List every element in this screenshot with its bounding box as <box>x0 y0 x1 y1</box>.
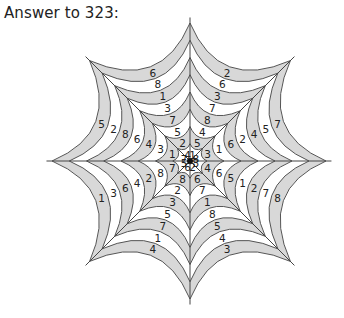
shaded-band <box>90 240 190 299</box>
web-cell-number: 5 <box>214 220 221 232</box>
web-cell-number: 7 <box>274 118 281 130</box>
web-cell-number: 8 <box>154 78 161 90</box>
web-cell-number: 3 <box>204 148 211 160</box>
web-cell-number: 1 <box>216 143 223 155</box>
web-cell-number: 1 <box>154 232 161 244</box>
web-cell-number: 5 <box>194 137 201 149</box>
web-cell-number: 3 <box>214 90 221 102</box>
shaded-band <box>190 240 290 299</box>
web-cell-number: 3 <box>169 196 176 208</box>
web-cell-number: 6 <box>219 78 226 90</box>
web-cell-number: 6 <box>122 182 129 194</box>
web-cell-number: 7 <box>159 220 166 232</box>
web-cell-number: 5 <box>174 126 181 138</box>
web-cell-number: 1 <box>98 192 105 204</box>
web-cell-number: 3 <box>157 143 164 155</box>
web-cell-number: 2 <box>251 182 258 194</box>
web-cell-number: 5 <box>164 208 171 220</box>
web-cell-number: 2 <box>174 184 181 196</box>
web-cell-number: 7 <box>199 184 206 196</box>
web-cell-number: 8 <box>122 128 129 140</box>
web-cell-number: 1 <box>239 177 246 189</box>
web-cell-number: 7 <box>263 187 270 199</box>
web-cell-number: 8 <box>209 208 216 220</box>
web-cell-number: 1 <box>159 90 166 102</box>
web-cell-number: 7 <box>169 114 176 126</box>
web-cell-number: 7 <box>209 102 216 114</box>
shaded-band <box>269 61 326 161</box>
web-cell-number: 4 <box>251 128 258 140</box>
web-cell-number: 8 <box>157 167 164 179</box>
web-cell-number: 2 <box>145 172 152 184</box>
web-cell-number: 4 <box>145 138 152 150</box>
web-cell-number: 1 <box>169 148 176 160</box>
shaded-band <box>190 23 290 82</box>
shaded-band <box>52 161 111 261</box>
web-cell-number: 4 <box>199 126 206 138</box>
web-cell-number: 6 <box>228 138 235 150</box>
web-cell-number: 4 <box>149 243 156 255</box>
web-cell-number: 6 <box>194 173 201 185</box>
web-cell-number: 2 <box>224 67 231 79</box>
spider-web-diagram: 1548736283162457346512782671854368235714… <box>0 0 344 318</box>
web-cell-number: 5 <box>98 118 105 130</box>
shaded-band <box>90 23 190 82</box>
web-cell-number: 8 <box>204 114 211 126</box>
web-cell-number: 3 <box>224 243 231 255</box>
web-cell-number: 8 <box>274 192 281 204</box>
web-cell-number: 6 <box>216 167 223 179</box>
web-cell-number: 1 <box>204 196 211 208</box>
web-cell-number: 2 <box>179 137 186 149</box>
web-cell-number: 3 <box>164 102 171 114</box>
web-cell-number: 4 <box>204 162 211 174</box>
web-cell-number: 4 <box>219 232 226 244</box>
shaded-band <box>269 161 326 261</box>
web-cell-number: 4 <box>184 149 191 161</box>
web-cell-number: 6 <box>149 67 156 79</box>
web-cell-number: 5 <box>263 123 270 135</box>
web-cell-number: 2 <box>239 133 246 145</box>
web-cell-number: 6 <box>134 133 141 145</box>
web-cell-number: 8 <box>179 173 186 185</box>
web-cell-number: 3 <box>110 187 117 199</box>
web-cell-number: 7 <box>169 162 176 174</box>
shaded-band <box>52 61 111 161</box>
web-cell-number: 5 <box>228 172 235 184</box>
web-cell-number: 2 <box>110 123 117 135</box>
web-cell-number: 4 <box>134 177 141 189</box>
